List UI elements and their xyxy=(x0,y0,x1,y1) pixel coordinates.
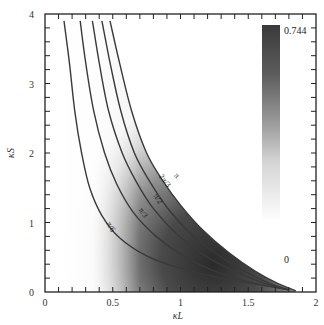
y-tick-label: 0 xyxy=(29,287,34,298)
x-axis-title: κL xyxy=(173,310,184,321)
y-tick-label: 1 xyxy=(29,218,34,229)
x-tick-label: 2 xyxy=(314,297,319,308)
x-tick-label: 0.5 xyxy=(107,297,120,308)
y-axis-tick-labels: 01234 xyxy=(29,9,34,298)
y-tick-label: 3 xyxy=(29,79,34,90)
y-axis-title: κS xyxy=(5,148,16,158)
contour-chart: π/6π/3π/22π/3π 0.744 0 00.511.52 01234 κ… xyxy=(0,0,324,325)
y-tick-label: 2 xyxy=(29,148,34,159)
y-tick-label: 4 xyxy=(29,9,34,20)
contour-label: π xyxy=(172,171,181,180)
colorbar-max-label: 0.744 xyxy=(284,25,307,36)
colorbar-min-label: 0 xyxy=(284,254,289,265)
x-tick-label: 1 xyxy=(178,297,183,308)
colorbar-gradient xyxy=(262,25,280,220)
x-tick-label: 0 xyxy=(43,297,48,308)
colorbar: 0.744 0 xyxy=(262,25,307,265)
x-axis-tick-labels: 00.511.52 xyxy=(43,297,319,308)
x-tick-label: 1.5 xyxy=(242,297,255,308)
